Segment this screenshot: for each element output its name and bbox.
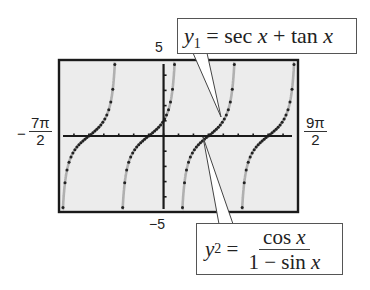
y2-dot — [121, 206, 124, 209]
x-min-sign: − — [17, 125, 26, 142]
y2-dot — [225, 114, 228, 117]
y2-dot — [183, 181, 186, 184]
y2-numerator: cos x — [259, 226, 310, 250]
y2-dot — [233, 63, 236, 66]
y1-x1: x — [258, 23, 268, 48]
y2-dot — [101, 121, 104, 124]
y2-num-x: x — [296, 225, 305, 249]
y2-eq: = — [221, 237, 238, 262]
y2-dot — [167, 108, 170, 111]
x-min-denominator: 2 — [34, 132, 46, 148]
y2-denominator: 1 − sin x — [246, 250, 322, 273]
y-min-label: −5 — [149, 216, 165, 232]
y2-sub: 2 — [214, 241, 221, 257]
y2-dot — [109, 100, 112, 103]
y2-dot — [66, 169, 69, 172]
y2-dot — [99, 124, 102, 127]
y2-dot — [111, 88, 114, 91]
y2-dot — [71, 151, 74, 154]
y1-eq: = sec — [201, 23, 258, 48]
y2-dot — [193, 148, 196, 151]
y2-dot — [105, 114, 108, 117]
y2-dot — [289, 100, 292, 103]
y2-dot — [113, 63, 116, 66]
y2-den-text: 1 − sin — [248, 250, 311, 274]
y2-dot — [127, 161, 130, 164]
y2-dot — [291, 88, 294, 91]
y2-dot — [131, 151, 134, 154]
y2-dot — [247, 161, 250, 164]
y1-plus: + tan — [268, 23, 324, 48]
y2-dot — [73, 148, 76, 151]
y2-dot — [243, 181, 246, 184]
y2-dot — [279, 124, 282, 127]
y2-dot — [293, 63, 296, 66]
y2-dot — [245, 169, 248, 172]
y2-dot — [231, 88, 234, 91]
graph-figure: 5 −5 − 7π 2 9π 2 y1 = sec x + tan x y2 =… — [0, 0, 370, 290]
y1-sub: 1 — [194, 36, 201, 51]
x-max-denominator: 2 — [309, 132, 321, 148]
y2-fraction: cos x 1 − sin x — [246, 226, 322, 273]
y2-dot — [285, 114, 288, 117]
y2-dot — [229, 100, 232, 103]
y2-var: y — [205, 237, 214, 262]
y2-dot — [181, 206, 184, 209]
y2-dot — [189, 155, 192, 158]
y2-dot — [68, 161, 71, 164]
callout-y1: y1 = sec x + tan x — [177, 18, 357, 54]
y1-var: y — [184, 23, 194, 48]
y1-x2: x — [323, 23, 333, 48]
x-max-numerator: 9π — [304, 115, 327, 132]
y2-dot — [125, 169, 128, 172]
y2-dot — [287, 108, 290, 111]
y2-dot — [249, 155, 252, 158]
x-max-label: 9π 2 — [304, 115, 327, 148]
y2-dot — [221, 121, 224, 124]
y-max-label: 5 — [155, 39, 163, 55]
y2-dot — [173, 63, 176, 66]
y2-den-x: x — [311, 250, 320, 274]
y2-dot — [223, 118, 226, 121]
y2-dot — [227, 108, 230, 111]
x-min-numerator: 7π — [29, 115, 52, 132]
y2-dot — [70, 155, 73, 158]
y2-dot — [133, 148, 136, 151]
y2-dot — [283, 118, 286, 121]
y2-dot — [185, 169, 188, 172]
y2-dot — [107, 108, 110, 111]
y2-dot — [241, 206, 244, 209]
callout-y2: y2 = cos x 1 − sin x — [196, 223, 343, 275]
y2-dot — [123, 181, 126, 184]
x-min-label: 7π 2 — [29, 115, 52, 148]
y2-dot — [219, 124, 222, 127]
y2-dot — [64, 181, 67, 184]
y2-dot — [281, 121, 284, 124]
y2-dot — [171, 88, 174, 91]
y2-dot — [187, 161, 190, 164]
y2-dot — [62, 206, 65, 209]
y2-dot — [165, 114, 168, 117]
y2-dot — [159, 124, 162, 127]
y2-dot — [251, 151, 254, 154]
y2-dot — [191, 151, 194, 154]
y2-dot — [103, 118, 106, 121]
y2-dot — [169, 100, 172, 103]
y2-dot — [253, 148, 256, 151]
y2-dot — [129, 155, 132, 158]
y2-num-text: cos — [263, 225, 296, 249]
